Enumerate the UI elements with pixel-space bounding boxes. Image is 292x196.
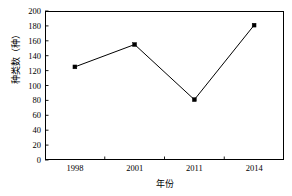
series-line xyxy=(75,25,254,100)
y-axis-tick-label: 120 xyxy=(14,66,41,75)
y-axis-tick-label: 20 xyxy=(14,141,41,150)
data-point-marker xyxy=(73,65,77,69)
y-axis-tick-label: 100 xyxy=(14,81,41,90)
y-axis-tick-labels: 020406080100120140160180200 xyxy=(14,11,41,160)
y-axis-tick-label: 180 xyxy=(14,22,41,31)
data-point-marker xyxy=(133,43,137,47)
x-axis-tick-label: 2001 xyxy=(112,163,158,173)
y-axis-tick-label: 0 xyxy=(14,156,41,165)
y-axis-tick-label: 140 xyxy=(14,51,41,60)
y-axis-tick-label: 40 xyxy=(14,126,41,135)
y-axis-tick-label: 160 xyxy=(14,37,41,46)
x-axis-tick-labels: 1998200120112014 xyxy=(45,163,284,175)
data-point-marker xyxy=(252,23,256,27)
line-chart: 种类数（种） 020406080100120140160180200 19982… xyxy=(0,0,292,196)
data-point-marker xyxy=(192,98,196,102)
y-axis-tick-label: 80 xyxy=(14,96,41,105)
x-axis-tick-label: 2014 xyxy=(231,163,277,173)
x-axis-title: 年份 xyxy=(45,179,284,189)
y-axis-tick-label: 60 xyxy=(14,111,41,120)
x-axis-tick-label: 1998 xyxy=(52,163,98,173)
plot-series-layer xyxy=(45,11,284,160)
x-axis-tick-label: 2011 xyxy=(171,163,217,173)
y-axis-tick-label: 200 xyxy=(14,7,41,16)
